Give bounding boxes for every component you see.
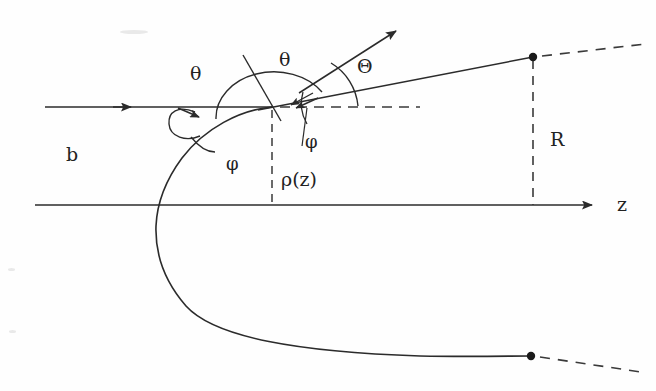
trajectory-curve: [156, 107, 531, 356]
theta-right-label: θ: [279, 50, 290, 69]
upper-endpoint-dot: [529, 53, 537, 61]
capital-theta-label: Θ: [357, 57, 373, 76]
theta-left-label: θ: [190, 64, 201, 83]
diagram-canvas: [0, 0, 656, 391]
lower-asymptote-dashed: [540, 357, 641, 372]
outgoing-ray: [258, 57, 533, 110]
rho-of-z-label: ρ(z): [281, 170, 317, 189]
phi-left-label: φ: [226, 155, 239, 173]
node-lower: [527, 352, 535, 360]
upper-asymptote-dashed: [542, 44, 645, 56]
z-axis-label: z: [617, 195, 627, 214]
node-upper: [529, 53, 537, 61]
scan-speck-1: [8, 268, 15, 271]
scan-speck-3: [120, 30, 148, 34]
phi-right-label: φ: [305, 133, 318, 151]
upper-asymptote-dash: [542, 44, 645, 56]
lower-asymptote-dash: [540, 357, 641, 372]
R-label: R: [550, 130, 564, 149]
hyperbola-trajectory: [156, 107, 531, 356]
phi-left-curl-path: [169, 109, 200, 138]
lower-endpoint-dot: [527, 352, 535, 360]
scattering-diagram: b θ θ Θ φ φ ρ(z) R z: [0, 0, 656, 391]
impact-parameter-label: b: [66, 145, 78, 164]
outgoing-ray-line: [258, 57, 533, 110]
scan-speck-2: [9, 330, 16, 333]
